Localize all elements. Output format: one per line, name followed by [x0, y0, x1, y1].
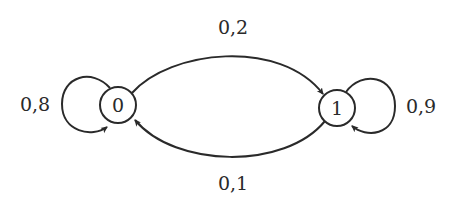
transition-arrow-1-to-0	[135, 120, 325, 157]
self-loop-arrow-0	[62, 77, 110, 132]
state-label-0: 0	[112, 94, 124, 116]
diagram-svg: 0 1 0,8 0,2 0,1 0,9	[0, 0, 455, 202]
self-loop-arrow-1	[346, 79, 395, 133]
state-label-1: 1	[331, 97, 343, 119]
state-node-0: 0	[100, 87, 136, 123]
markov-chain-diagram: 0 1 0,8 0,2 0,1 0,9	[0, 0, 455, 202]
transition-arrow-0-to-1	[132, 56, 323, 94]
transition-label-0-to-0: 0,8	[20, 93, 50, 115]
transition-label-1-to-0: 0,1	[218, 172, 248, 194]
transition-label-1-to-1: 0,9	[406, 95, 436, 117]
transition-label-0-to-1: 0,2	[218, 16, 248, 38]
